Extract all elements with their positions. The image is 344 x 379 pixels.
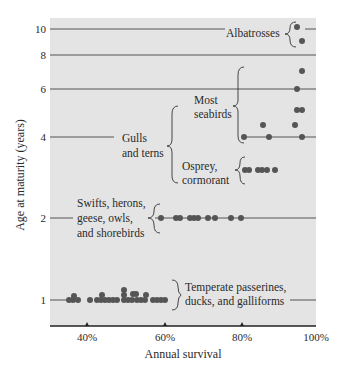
y-axis-label: Age at maturity (years) (13, 119, 27, 231)
y-tick-2: 2 (41, 212, 47, 224)
y-tick-6: 6 (41, 83, 47, 95)
y-tick-4: 4 (41, 131, 47, 143)
label-passerines-1: Temperate passerines, (185, 281, 286, 294)
y-tick-1: 1 (41, 294, 47, 306)
label-osprey-1: Osprey, (182, 160, 217, 173)
x-tick-100: 100% (303, 331, 329, 343)
y-tick-8: 8 (41, 49, 47, 61)
label-most-seabirds-2: seabirds (194, 108, 232, 120)
label-gulls-2: and terns (122, 147, 164, 159)
label-passerines-2: ducks, and galliforms (185, 295, 285, 308)
label-swifts-2: geese, owls, (77, 212, 133, 225)
label-osprey-2: cormorant (182, 174, 230, 186)
chart: 10 8 6 4 2 1 40% 60% 80% 100% Annual sur… (0, 0, 344, 379)
label-most-seabirds-1: Most (194, 94, 218, 106)
x-tick-40: 40% (77, 331, 97, 343)
y-tick-10: 10 (35, 23, 47, 35)
label-gulls-1: Gulls (122, 132, 147, 144)
x-axis-label: Annual survival (145, 347, 223, 361)
label-swifts-1: Swifts, herons, (77, 197, 146, 210)
x-tick-80: 80% (232, 331, 252, 343)
label-swifts-3: and shorebirds (77, 227, 145, 239)
x-tick-60: 60% (155, 331, 175, 343)
label-albatrosses: Albatrosses (226, 27, 280, 39)
